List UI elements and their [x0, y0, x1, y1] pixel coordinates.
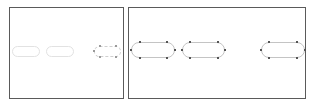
resize-handle[interactable]	[189, 41, 191, 43]
resize-handle[interactable]	[189, 57, 191, 59]
pill-shape[interactable]	[46, 46, 74, 57]
resize-handle[interactable]	[130, 49, 132, 51]
selected-pill-shape[interactable]	[131, 42, 175, 58]
resize-handle[interactable]	[115, 45, 117, 47]
resize-handle[interactable]	[217, 41, 219, 43]
resize-handle[interactable]	[224, 49, 226, 51]
resize-handle[interactable]	[99, 56, 101, 58]
resize-handle[interactable]	[296, 57, 298, 59]
resize-handle[interactable]	[217, 57, 219, 59]
selected-pill-shape[interactable]	[182, 42, 225, 58]
resize-handle[interactable]	[174, 49, 176, 51]
resize-handle[interactable]	[296, 41, 298, 43]
pill-shape[interactable]	[12, 46, 40, 57]
resize-handle[interactable]	[93, 50, 95, 52]
resize-handle[interactable]	[181, 49, 183, 51]
diagram-canvas	[0, 0, 315, 105]
resize-handle[interactable]	[139, 41, 141, 43]
resize-handle[interactable]	[166, 41, 168, 43]
resize-handle[interactable]	[115, 56, 117, 58]
resize-handle[interactable]	[166, 57, 168, 59]
resize-handle[interactable]	[268, 41, 270, 43]
resize-handle[interactable]	[139, 57, 141, 59]
resize-handle[interactable]	[99, 45, 101, 47]
resize-handle[interactable]	[260, 49, 262, 51]
selected-pill-shape[interactable]	[261, 42, 305, 58]
resize-handle[interactable]	[304, 49, 306, 51]
resize-handle[interactable]	[268, 57, 270, 59]
